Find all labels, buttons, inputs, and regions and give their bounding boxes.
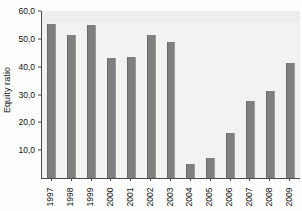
y-axis-tick-label: 20,0 bbox=[18, 117, 35, 127]
x-axis-tick-mark bbox=[91, 178, 92, 181]
x-axis-tick-mark bbox=[269, 178, 270, 181]
x-axis-tick-mark bbox=[249, 178, 250, 181]
x-axis-tick-label-text: 2008 bbox=[264, 188, 274, 207]
x-axis-tick-label-text: 2001 bbox=[125, 188, 135, 207]
x-axis-tick-mark bbox=[150, 178, 151, 181]
bar bbox=[206, 158, 215, 178]
y-axis-tick-label: 50,0 bbox=[18, 34, 35, 44]
x-axis-tick-mark bbox=[230, 178, 231, 181]
y-axis-tick-label: 40,0 bbox=[18, 62, 35, 72]
bar bbox=[107, 58, 116, 178]
x-axis-tick-mark bbox=[51, 178, 52, 181]
y-axis-title-label: Equity ratio bbox=[2, 67, 12, 113]
y-axis-tick-label: 60,0 bbox=[18, 6, 35, 16]
y-axis-tick-label: 10,0 bbox=[18, 145, 35, 155]
x-axis-tick-label-text: 2004 bbox=[185, 188, 195, 207]
x-axis-tick-mark bbox=[289, 178, 290, 181]
x-axis-tick-label-text: 2007 bbox=[244, 188, 254, 207]
bar bbox=[47, 24, 56, 178]
x-axis-tick-label-text: 1997 bbox=[46, 188, 56, 207]
x-axis-tick-label-text: 1998 bbox=[66, 188, 76, 207]
bar bbox=[266, 91, 275, 178]
x-axis-tick-mark bbox=[170, 178, 171, 181]
bar bbox=[127, 57, 136, 178]
x-axis-tick-mark bbox=[110, 178, 111, 181]
x-axis-tick-label-text: 2000 bbox=[105, 188, 115, 207]
x-axis-tick-label-text: 2003 bbox=[165, 188, 175, 207]
x-axis-tick-mark bbox=[210, 178, 211, 181]
x-axis-tick-label-text: 2002 bbox=[145, 188, 155, 207]
x-axis-tick-mark bbox=[130, 178, 131, 181]
bar bbox=[167, 42, 176, 178]
bar bbox=[67, 35, 76, 178]
bar bbox=[246, 101, 255, 178]
bar bbox=[226, 133, 235, 178]
x-axis-tick-label-text: 2009 bbox=[284, 188, 294, 207]
bar bbox=[87, 25, 96, 178]
y-axis-tick-label: 30,0 bbox=[18, 90, 35, 100]
x-axis-tick-mark bbox=[190, 178, 191, 181]
x-axis-tick-label: 2009 bbox=[275, 182, 302, 211]
x-axis-tick-mark bbox=[71, 178, 72, 181]
x-axis-tick-label-text: 2006 bbox=[225, 188, 235, 207]
x-axis-tick-labels: 1997199819992000200120022003200420052006… bbox=[41, 182, 300, 211]
plot-area bbox=[41, 11, 300, 178]
y-axis-title: Equity ratio bbox=[0, 0, 14, 180]
x-axis-tick-label-text: 1999 bbox=[86, 188, 96, 207]
bar bbox=[147, 35, 156, 178]
bar-chart: Equity ratio 10,020,030,040,050,060,0 19… bbox=[0, 0, 302, 211]
bar-series bbox=[42, 11, 300, 178]
bar bbox=[286, 63, 295, 179]
bar bbox=[186, 164, 195, 178]
x-axis-tick-label-text: 2005 bbox=[205, 188, 215, 207]
y-axis-tick-labels: 10,020,030,040,050,060,0 bbox=[14, 0, 38, 185]
